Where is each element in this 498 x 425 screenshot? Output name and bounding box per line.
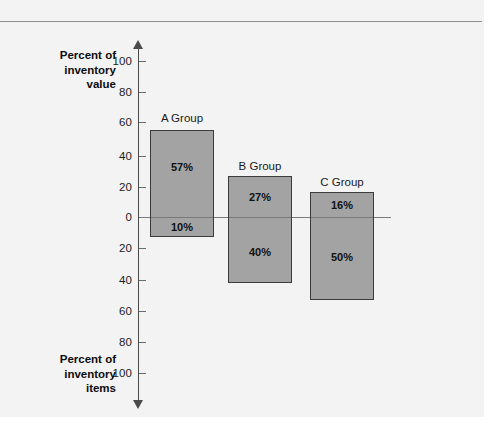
y-tick-mark — [139, 280, 146, 281]
y-tick-label: 60 — [98, 305, 132, 317]
upper-axis-title-line3: value — [20, 77, 116, 92]
y-tick-mark — [139, 373, 146, 374]
upper-axis-title-line2: inventory — [20, 63, 116, 78]
y-tick-label: 40 — [98, 274, 132, 286]
bar-b-zero-divider — [229, 217, 291, 218]
y-tick-mark — [139, 187, 146, 188]
y-tick-label: 20 — [98, 242, 132, 254]
y-axis-line — [138, 48, 139, 403]
bar-b-items-label: 40% — [228, 246, 292, 258]
upper-axis-title: Percent of inventory value — [20, 48, 116, 92]
chart-page: 100 80 60 40 20 0 20 40 60 80 100 Percen… — [0, 0, 498, 425]
bar-a-zero-divider — [151, 217, 213, 218]
y-tick-label: 20 — [98, 181, 132, 193]
y-tick-label: 80 — [98, 336, 132, 348]
upper-axis-title-line1: Percent of — [20, 48, 116, 63]
lower-axis-title-line2: inventory — [20, 367, 116, 382]
bar-a-items-label: 10% — [150, 221, 214, 233]
lower-axis-title: Percent of inventory items — [20, 352, 116, 396]
lower-axis-title-line3: items — [20, 381, 116, 396]
y-tick-mark — [139, 92, 146, 93]
y-tick-mark — [139, 248, 146, 249]
bar-b-value-label: 27% — [228, 191, 292, 203]
y-tick-mark — [139, 122, 146, 123]
y-tick-mark — [139, 156, 146, 157]
y-tick-mark — [139, 311, 146, 312]
lower-axis-title-line1: Percent of — [20, 352, 116, 367]
y-tick-label: 60 — [98, 116, 132, 128]
group-label-a: A Group — [150, 112, 214, 124]
y-tick-mark — [139, 61, 146, 62]
bar-c-zero-divider — [311, 217, 373, 218]
inventory-abc-analysis-chart: 100 80 60 40 20 0 20 40 60 80 100 Percen… — [0, 0, 498, 425]
y-tick-label: 40 — [98, 150, 132, 162]
bar-c-items-label: 50% — [310, 251, 374, 263]
group-label-b: B Group — [228, 160, 292, 172]
group-label-c: C Group — [310, 176, 374, 188]
y-tick-label-zero: 0 — [98, 211, 132, 223]
y-tick-mark — [139, 342, 146, 343]
bar-a-value-label: 57% — [150, 161, 214, 173]
y-axis-arrow-down-icon — [133, 400, 143, 409]
bar-c-value-label: 16% — [310, 199, 374, 211]
